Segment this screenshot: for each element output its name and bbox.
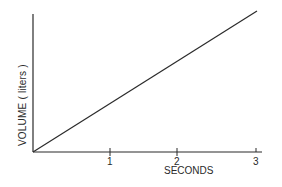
- x-tick-label-1: 1: [107, 157, 113, 167]
- volume-line: [33, 11, 257, 152]
- line-chart: 1 2 3 SECONDS VOLUME ( liters ): [0, 0, 282, 187]
- y-axis-title: VOLUME ( liters ): [18, 64, 28, 146]
- x-tick-label-3: 3: [253, 157, 259, 167]
- chart-plot-area: [0, 0, 282, 187]
- x-axis-title: SECONDS: [164, 166, 213, 176]
